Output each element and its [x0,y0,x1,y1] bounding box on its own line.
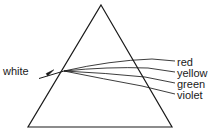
ray-exit-violet [142,86,175,94]
ray-exit-red [152,59,175,61]
prism-dispersion-diagram: white red yellow green violet [0,0,212,134]
label-white: white [3,66,29,77]
label-violet: violet [177,90,203,101]
ray-exit-green [145,77,175,83]
ray-exit-yellow [148,68,175,72]
prism-outline [28,5,172,127]
ray-inside-green [64,71,145,77]
